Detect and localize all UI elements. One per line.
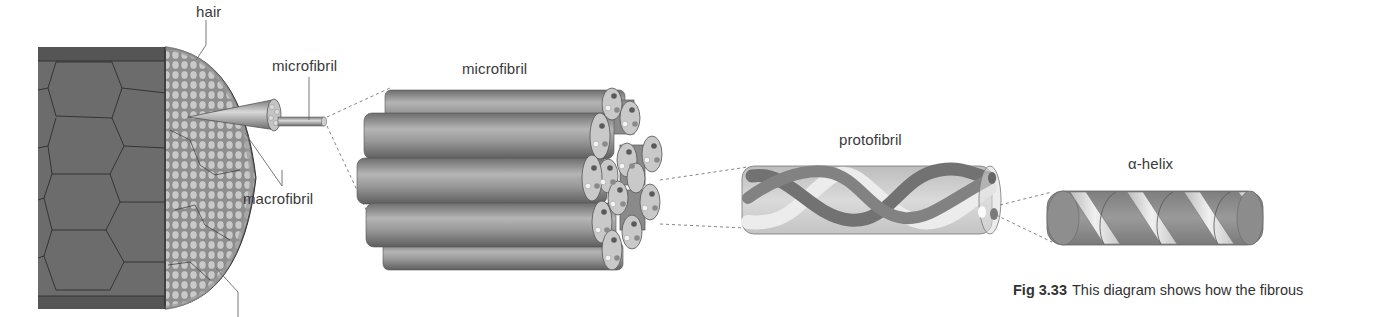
- label-macrofibril: macrofibril: [243, 190, 313, 207]
- microfibril-bundle: [357, 88, 662, 270]
- zoom-lines-2: [660, 167, 748, 228]
- figure-number: Fig 3.33: [1013, 282, 1067, 298]
- figure-caption: Fig 3.33This diagram shows how the fibro…: [1013, 282, 1303, 298]
- label-alpha-helix: α-helix: [1128, 155, 1173, 172]
- hair-illustration: [38, 47, 266, 309]
- caption-text: This diagram shows how the fibrous: [1072, 282, 1303, 298]
- label-protofibril: protofibril: [839, 131, 902, 148]
- label-microfibril-large: microfibril: [462, 60, 527, 77]
- protofibril-illustration: [742, 166, 1001, 234]
- label-hair: hair: [196, 3, 221, 20]
- keratin-structure-diagram: [0, 0, 1382, 317]
- label-microfibril-small: microfibril: [272, 57, 337, 74]
- zoom-lines-3: [996, 192, 1052, 242]
- alpha-helix-illustration: [1047, 191, 1263, 245]
